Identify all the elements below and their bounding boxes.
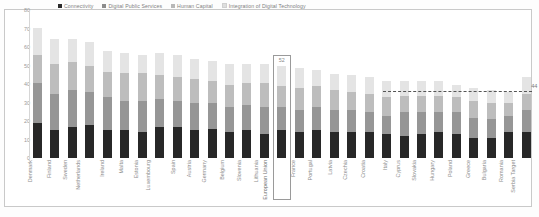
stacked-bar[interactable] [85, 42, 94, 158]
x-axis-label-slot: Greece [468, 160, 479, 212]
stacked-bar[interactable] [68, 39, 77, 158]
stacked-bar[interactable] [138, 55, 147, 158]
segment-human-capital [417, 112, 426, 134]
bar-slot[interactable] [137, 11, 148, 158]
bar-slot[interactable] [67, 11, 78, 158]
bar-slot[interactable] [84, 11, 95, 158]
bar-slot[interactable] [207, 11, 218, 158]
legend-item-integration-of-digital-technology: Integration of Digital Technology [222, 3, 306, 9]
stacked-bar[interactable] [504, 92, 513, 158]
x-axis-label: Greece [465, 160, 471, 178]
segment-integration-of-digital-technology [260, 64, 269, 82]
stacked-bar[interactable] [469, 88, 478, 158]
segment-human-capital [365, 112, 374, 132]
segment-integration-of-digital-technology [504, 92, 513, 103]
bar-slot[interactable] [102, 11, 113, 158]
segment-digital-public-services [225, 85, 234, 107]
segment-integration-of-digital-technology [173, 55, 182, 77]
stacked-bar[interactable] [208, 61, 217, 158]
bar-slot[interactable] [416, 11, 427, 158]
bar-slot[interactable] [468, 11, 479, 158]
stacked-bar[interactable] [452, 85, 461, 158]
segment-connectivity [50, 130, 59, 158]
segment-connectivity [68, 127, 77, 158]
stacked-bar[interactable] [417, 81, 426, 158]
bar-slot[interactable] [32, 11, 43, 158]
bar-slot[interactable] [399, 11, 410, 158]
stacked-bar[interactable] [242, 64, 251, 158]
bar-slot[interactable] [224, 11, 235, 158]
bar-slot[interactable] [189, 11, 200, 158]
stacked-bar[interactable] [277, 66, 286, 158]
bar-slot[interactable] [241, 11, 252, 158]
segment-human-capital [452, 112, 461, 134]
stacked-bar[interactable] [434, 81, 443, 158]
bar-slot[interactable] [451, 11, 462, 158]
y-axis-tick: 10 [8, 137, 30, 143]
x-axis-label-slot: Finland [49, 160, 60, 212]
bar-slot[interactable]: 52 [276, 11, 287, 158]
x-axis-label-slot: Bulgaria [486, 160, 497, 212]
bar-slot[interactable] [521, 11, 532, 158]
stacked-bar[interactable] [173, 55, 182, 158]
segment-human-capital [173, 101, 182, 127]
stacked-bar[interactable] [400, 81, 409, 158]
x-axis-label: Finland [46, 160, 52, 178]
x-axis-label: Slovenia [236, 160, 242, 181]
y-axis-tick: 40 [8, 81, 30, 87]
stacked-bar[interactable] [312, 70, 321, 158]
segment-integration-of-digital-technology [417, 81, 426, 96]
bar-slot[interactable] [364, 11, 375, 158]
segment-human-capital [138, 101, 147, 132]
segment-human-capital [487, 119, 496, 137]
legend-label: Connectivity [64, 3, 93, 9]
segment-connectivity [382, 134, 391, 158]
stacked-bar[interactable] [295, 68, 304, 158]
bar-slot[interactable] [433, 11, 444, 158]
bar-slot[interactable] [329, 11, 340, 158]
legend-swatch-icon [58, 4, 62, 8]
bar-slot[interactable] [259, 11, 270, 158]
stacked-bar[interactable] [103, 51, 112, 158]
stacked-bar[interactable] [155, 53, 164, 158]
bar-slot[interactable] [503, 11, 514, 158]
bar-slot[interactable] [346, 11, 357, 158]
segment-digital-public-services [452, 97, 461, 112]
stacked-bar[interactable] [382, 81, 391, 158]
segment-digital-public-services [295, 88, 304, 110]
stacked-bar[interactable] [50, 39, 59, 158]
segment-integration-of-digital-technology [190, 59, 199, 79]
stacked-bar[interactable] [33, 28, 42, 158]
segment-connectivity [103, 130, 112, 158]
x-axis-label-slot: Latvia [329, 160, 340, 212]
segment-integration-of-digital-technology [295, 68, 304, 88]
bar-slot[interactable] [172, 11, 183, 158]
stacked-bar[interactable] [120, 53, 129, 158]
legend-label: Human Capital [177, 3, 213, 9]
stacked-bar[interactable] [365, 77, 374, 158]
target-value-label: 44 [531, 83, 537, 89]
x-axis-label-slot: Malta [119, 160, 130, 212]
segment-connectivity [173, 127, 182, 158]
bar-slot[interactable] [119, 11, 130, 158]
stacked-bar[interactable] [347, 75, 356, 158]
x-axis-label: Cyprus [395, 160, 401, 177]
segment-integration-of-digital-technology [330, 74, 339, 91]
bar-slot[interactable] [49, 11, 60, 158]
x-axis-label: Slovakia [411, 160, 417, 181]
stacked-bar[interactable] [522, 77, 531, 158]
bar-slot[interactable] [311, 11, 322, 158]
bar-slot[interactable] [381, 11, 392, 158]
stacked-bar[interactable] [330, 74, 339, 159]
stacked-bar[interactable] [260, 64, 269, 158]
segment-integration-of-digital-technology [312, 70, 321, 87]
stacked-bar[interactable] [190, 59, 199, 158]
bar-slot[interactable] [486, 11, 497, 158]
segment-integration-of-digital-technology [277, 66, 286, 86]
stacked-bar[interactable] [487, 90, 496, 158]
segment-connectivity [452, 134, 461, 158]
stacked-bar[interactable] [225, 64, 234, 158]
bar-slot[interactable] [154, 11, 165, 158]
legend-swatch-icon [222, 3, 227, 8]
bar-slot[interactable] [294, 11, 305, 158]
